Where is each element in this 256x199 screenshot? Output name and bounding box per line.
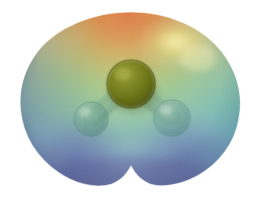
electrostatic-potential-map (0, 0, 256, 199)
molecular-surface-figure: Electrostatic potential map of a water m… (0, 0, 256, 199)
